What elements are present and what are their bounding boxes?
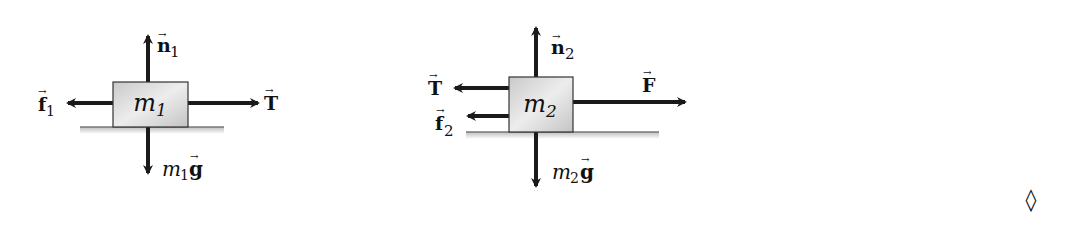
end-of-example-diamond-icon: ◊	[1026, 187, 1037, 213]
vector-arrow-icon: →	[552, 31, 561, 42]
label-tension-force-1: T →	[264, 85, 278, 114]
vector-arrow-icon: →	[429, 70, 438, 81]
svg-text:2: 2	[444, 122, 454, 140]
vector-arrow-icon: →	[38, 86, 47, 97]
svg-text:1: 1	[46, 103, 55, 119]
label-weight-force-1: m 1 g →	[162, 151, 203, 183]
vector-arrow-icon: →	[265, 85, 274, 96]
svg-text:2: 2	[570, 170, 579, 186]
free-body-diagram-block-2: m2 n 2 → T → f 2 → F → m 2 g →	[428, 28, 685, 186]
ground-surface-1	[80, 127, 224, 134]
vector-arrow-icon: →	[581, 154, 590, 165]
vector-arrow-icon: →	[158, 29, 167, 40]
label-normal-force-2: n 2 →	[551, 31, 575, 63]
label-friction-force-1: f 1 →	[38, 86, 55, 119]
vector-arrow-icon: →	[436, 105, 445, 116]
label-normal-force-1: n 1 →	[157, 29, 180, 61]
vector-arrow-icon: →	[643, 67, 652, 78]
svg-text:1: 1	[170, 43, 180, 61]
free-body-diagram-block-1: m1 n 1 → f 1 → T → m 1 g →	[38, 29, 278, 183]
svg-text:m: m	[552, 160, 571, 184]
label-friction-force-2: f 2 →	[435, 105, 454, 140]
free-body-diagrams-figure: m1 n 1 → f 1 → T → m 1 g →	[0, 0, 1068, 226]
svg-text:1: 1	[180, 167, 189, 183]
svg-text:2: 2	[565, 45, 575, 63]
label-tension-force-2: T →	[428, 70, 442, 99]
svg-text:m: m	[162, 157, 181, 181]
vector-arrow-icon: →	[190, 151, 199, 162]
label-weight-force-2: m 2 g →	[552, 154, 594, 186]
ground-surface-2	[466, 132, 659, 139]
label-applied-force-2: F →	[642, 67, 656, 96]
